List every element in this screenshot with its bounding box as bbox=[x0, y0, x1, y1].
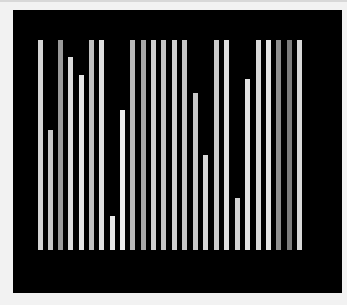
vertical-bar bbox=[182, 40, 187, 250]
vertical-bar bbox=[79, 75, 84, 250]
vertical-bar bbox=[172, 40, 177, 250]
vertical-bar bbox=[141, 40, 146, 250]
vertical-bar bbox=[48, 130, 53, 250]
vertical-bar bbox=[224, 40, 229, 250]
vertical-bar bbox=[151, 40, 156, 250]
vertical-bar bbox=[276, 40, 281, 250]
vertical-bar bbox=[287, 40, 292, 250]
vertical-bar bbox=[38, 40, 43, 250]
vertical-bar bbox=[130, 40, 135, 250]
vertical-bar bbox=[89, 40, 94, 250]
vertical-bar bbox=[99, 40, 104, 250]
vertical-bar bbox=[120, 110, 125, 250]
vertical-bar bbox=[266, 40, 271, 250]
top-border bbox=[0, 0, 347, 2]
vertical-bar bbox=[256, 40, 261, 250]
vertical-bar bbox=[68, 57, 73, 250]
vertical-bar bbox=[214, 40, 219, 250]
vertical-bar bbox=[235, 198, 240, 250]
vertical-bar bbox=[245, 79, 250, 250]
vertical-bar bbox=[58, 40, 63, 250]
bar-pattern-panel bbox=[13, 10, 342, 293]
vertical-bar bbox=[110, 216, 115, 250]
vertical-bar bbox=[161, 40, 166, 250]
vertical-bar bbox=[297, 40, 302, 250]
vertical-bar bbox=[203, 155, 208, 250]
vertical-bar bbox=[193, 93, 198, 250]
